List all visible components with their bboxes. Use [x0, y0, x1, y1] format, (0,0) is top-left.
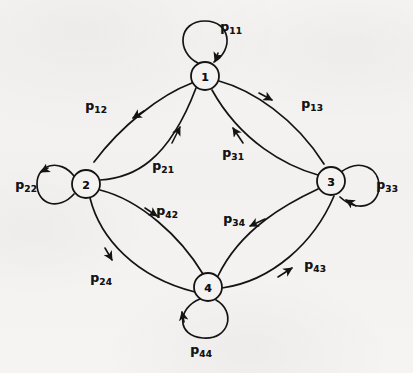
node-label-3: 3 [327, 177, 335, 188]
label-p33-sub: 33 [385, 184, 398, 194]
label-p44-base: p [190, 342, 199, 357]
label-p12: p12 [85, 100, 107, 113]
label-p31-sub: 31 [231, 152, 244, 162]
label-p43-base: p [304, 257, 313, 272]
node-label-2: 2 [82, 180, 90, 191]
label-p22-sub: 22 [24, 184, 37, 194]
label-p21-base: p [152, 158, 161, 173]
label-p34-sub: 34 [232, 218, 245, 228]
label-p42-sub: 42 [165, 210, 178, 220]
label-p12-base: p [85, 98, 94, 113]
label-p12-sub: 12 [94, 105, 107, 115]
self-loop-p44 [182, 299, 228, 338]
label-p44-sub: 44 [199, 349, 212, 359]
label-p22: p22 [15, 179, 37, 192]
label-p21-sub: 21 [161, 165, 174, 175]
label-p13-sub: 13 [310, 103, 323, 113]
label-p42-base: p [156, 203, 165, 218]
label-p33: p33 [376, 179, 398, 192]
edge-p43 [222, 196, 334, 288]
label-p43-sub: 43 [313, 264, 326, 274]
label-p21: p21 [152, 160, 174, 173]
label-p42: p42 [156, 205, 178, 218]
label-p31-base: p [222, 145, 231, 160]
node-label-4: 4 [204, 283, 212, 294]
label-p13: p13 [301, 98, 323, 111]
edge-p21 [100, 88, 196, 180]
label-p24: p24 [90, 272, 112, 285]
label-p44: p44 [190, 344, 212, 357]
edge-p12 [94, 83, 192, 162]
label-p11-sub: 11 [229, 26, 242, 36]
label-p24-sub: 24 [99, 277, 112, 287]
edge-p34 [218, 189, 318, 276]
label-p33-base: p [376, 177, 385, 192]
label-p11-base: p [220, 19, 229, 34]
transition-graph [0, 0, 413, 373]
label-p34-base: p [223, 211, 232, 226]
self-loop-p22 [37, 165, 74, 204]
label-p43: p43 [304, 259, 326, 272]
node-label-1: 1 [201, 72, 209, 83]
markov-chain-figure: 1 2 3 4 p11 p22 p33 p44 p12 p13 p21 p31 … [0, 0, 413, 373]
label-p22-base: p [15, 177, 24, 192]
label-p11: p11 [220, 21, 242, 34]
label-p13-base: p [301, 96, 310, 111]
self-loop-p33 [340, 165, 379, 206]
edge-p42 [100, 190, 203, 274]
label-p24-base: p [90, 270, 99, 285]
label-p34: p34 [223, 213, 245, 226]
label-p31: p31 [222, 147, 244, 160]
